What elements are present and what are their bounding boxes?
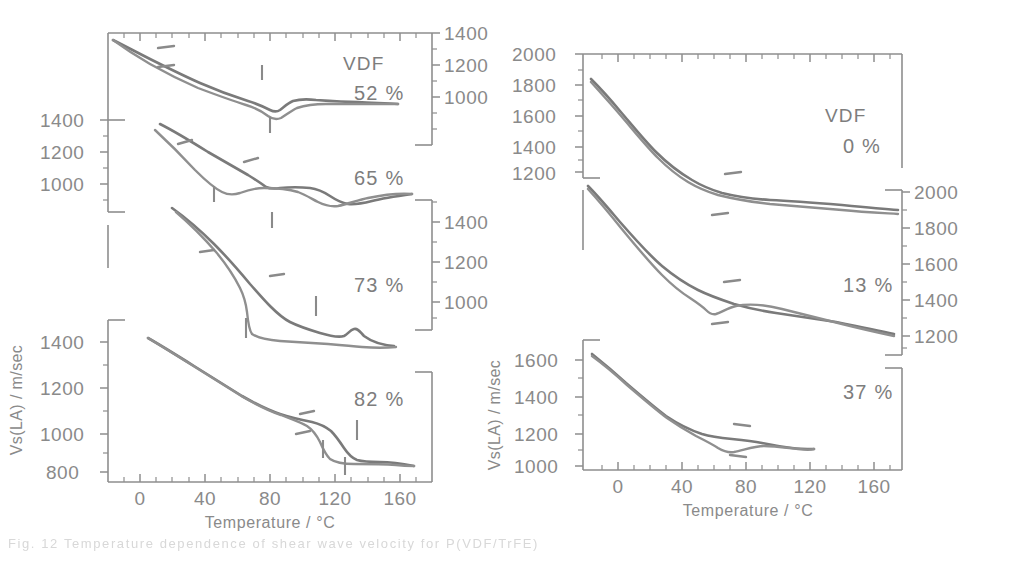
right-0-ytick-1600: 1600 — [512, 106, 556, 127]
heating-dash-13 — [724, 280, 740, 282]
cooling-dash-13 — [712, 322, 728, 324]
right-xtick-80: 80 — [735, 476, 757, 497]
right-vdf-legend-label: VDF — [825, 105, 867, 126]
right-0-ytick-2000: 2000 — [512, 44, 556, 65]
right-yaxis-label-group: Vs(LA) / m/sec — [486, 360, 503, 471]
left-xtick-160: 160 — [383, 488, 416, 509]
right-vdf-0-label: 0 % — [843, 135, 881, 157]
left-xtick-80: 80 — [259, 488, 281, 509]
heating-dash-0 — [725, 172, 741, 174]
right-subplot-37-axes: 1600 1400 1200 1000 — [514, 340, 902, 519]
left-xaxis-label: Temperature / °C — [205, 514, 336, 531]
right-xtick-120: 120 — [793, 476, 826, 497]
right-0-ytick-1200: 1200 — [512, 163, 556, 184]
left-65-ytick-1400: 1400 — [40, 110, 84, 131]
left-vdf-65-label: 65 % — [354, 167, 404, 189]
left-82-ytick-1200: 1200 — [40, 378, 84, 399]
cooling-dash-0 — [712, 213, 728, 215]
right-xaxis-label: Temperature / °C — [683, 502, 814, 519]
left-82-ytick-800: 800 — [46, 462, 79, 483]
cooling-dash-82 — [296, 431, 310, 434]
left-vdf-73-label: 73 % — [354, 274, 404, 296]
figure-svg: 1400 1200 1000 VDF 52 % — [0, 0, 1010, 566]
right-13-ytick-2000: 2000 — [914, 182, 958, 203]
left-65-ytick-1000: 1000 — [40, 174, 84, 195]
right-subplot-13-axes: 2000 1800 1600 1400 1200 — [885, 182, 958, 355]
right-37-ytick-1400: 1400 — [514, 387, 558, 408]
left-xtick-0: 0 — [134, 488, 145, 509]
left-52-ytick-1000: 1000 — [444, 87, 488, 108]
cooling-dash-37 — [730, 455, 746, 457]
left-xtick-120: 120 — [318, 488, 351, 509]
left-65-ytick-1200: 1200 — [40, 142, 84, 163]
left-xtick-40: 40 — [194, 488, 216, 509]
left-73-ytick-1000: 1000 — [444, 292, 488, 313]
right-subplot-13-curves — [588, 186, 894, 336]
right-37-ytick-1000: 1000 — [514, 456, 558, 477]
left-82-ytick-1000: 1000 — [40, 424, 84, 445]
left-52-ytick-1200: 1200 — [444, 55, 488, 76]
right-13-ytick-1600: 1600 — [914, 254, 958, 275]
left-subplot-82-axes: 1400 1200 1000 800 — [40, 320, 432, 531]
left-subplot-65-axes: 1400 1200 1000 — [40, 110, 125, 268]
left-82-ytick-1400: 1400 — [40, 332, 84, 353]
right-xtick-0: 0 — [612, 476, 623, 497]
left-vdf-legend-label: VDF — [343, 53, 385, 74]
heating-dash-52 — [158, 46, 174, 48]
right-13-ytick-1200: 1200 — [914, 326, 958, 347]
heating-dash-37 — [734, 424, 750, 426]
right-13-ytick-1400: 1400 — [914, 290, 958, 311]
right-yaxis-label: Vs(LA) / m/sec — [486, 360, 503, 471]
left-yaxis-label: Vs(LA) / m/sec — [8, 345, 25, 456]
cooling-dash-65 — [244, 158, 258, 162]
left-73-ytick-1400: 1400 — [444, 212, 488, 233]
cooling-dash-73 — [270, 274, 284, 276]
right-37-ytick-1200: 1200 — [514, 424, 558, 445]
right-xtick-40: 40 — [671, 476, 693, 497]
right-vdf-13-label: 13 % — [843, 274, 893, 296]
left-52-ytick-1400: 1400 — [444, 23, 488, 44]
left-subplot-73-axes: 1400 1200 1000 — [415, 200, 488, 330]
left-panel: 1400 1200 1000 VDF 52 % — [8, 23, 488, 531]
right-panel: 2000 1800 1600 1400 1200 VDF 0 % — [486, 44, 958, 519]
figure-canvas: 1400 1200 1000 VDF 52 % — [0, 0, 1010, 566]
right-37-ytick-1600: 1600 — [514, 350, 558, 371]
left-vdf-52-label: 52 % — [354, 82, 404, 104]
right-subplot-37-curves — [592, 354, 814, 457]
left-vdf-82-label: 82 % — [354, 388, 404, 410]
left-73-ytick-1200: 1200 — [444, 252, 488, 273]
right-0-ytick-1400: 1400 — [512, 137, 556, 158]
right-vdf-37-label: 37 % — [843, 381, 893, 403]
right-0-ytick-1800: 1800 — [512, 75, 556, 96]
left-yaxis-label-group: Vs(LA) / m/sec — [8, 345, 25, 456]
right-xtick-160: 160 — [857, 476, 890, 497]
heating-dash-82 — [300, 411, 314, 414]
right-13-ytick-1800: 1800 — [914, 218, 958, 239]
heating-dash-73 — [200, 250, 214, 252]
figure-caption: Fig. 12 Temperature dependence of shear … — [8, 536, 539, 551]
